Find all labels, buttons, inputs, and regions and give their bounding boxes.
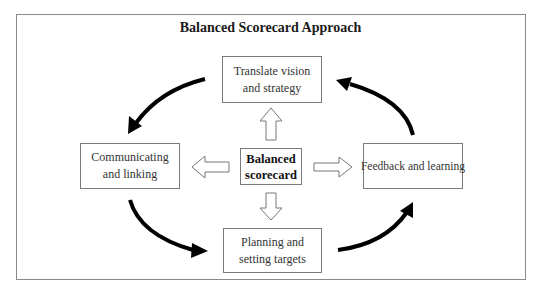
hollow-arrow-up-icon <box>260 108 282 140</box>
hollow-arrow-left-icon <box>192 156 229 178</box>
curved-arrow-left-to-bottom-icon <box>130 200 208 258</box>
arrows-layer <box>0 0 541 294</box>
curved-arrow-bottom-to-right-icon <box>338 202 413 250</box>
hollow-arrow-down-icon <box>260 193 282 220</box>
curved-arrow-top-to-left-icon <box>128 79 205 134</box>
hollow-arrow-right-icon <box>314 157 352 177</box>
curved-arrow-right-to-top-icon <box>336 77 413 135</box>
